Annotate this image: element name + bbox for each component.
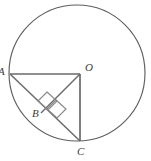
vertex-label-c: C — [77, 146, 84, 157]
right-angle-mark-lower-icon — [47, 100, 66, 118]
geometry-canvas — [0, 0, 151, 161]
circle-outline — [9, 5, 145, 141]
vertex-label-o: O — [85, 62, 93, 73]
vertex-label-b: B — [32, 108, 39, 119]
segment-OB — [41, 74, 80, 113]
vertex-label-a: A — [0, 66, 5, 77]
geometry-figure: A O B C — [0, 0, 151, 161]
